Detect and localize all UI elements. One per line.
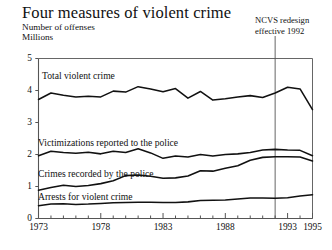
y-tick-label: 2: [16, 149, 32, 159]
x-tick-label: 1973: [22, 222, 56, 232]
series-label-arrests: Arrests for violent crime: [38, 191, 133, 202]
x-tick-label: 1978: [84, 222, 118, 232]
series-label-victimizations: Victimizations reported to the police: [38, 137, 178, 148]
series-label-recorded: Crimes recorded by the police: [38, 168, 154, 179]
figure-container: Four measures of violent crime Number of…: [0, 0, 332, 250]
y-tick-label: 3: [16, 117, 32, 127]
series-label-total: Total violent crime: [42, 70, 115, 81]
series-line-0: [39, 87, 313, 110]
x-tick-label: 1995: [296, 222, 330, 232]
x-tick-label: 1988: [208, 222, 242, 232]
y-tick-label: 1: [16, 181, 32, 191]
y-tick-label: 4: [16, 85, 32, 95]
chart-plot-area: [0, 0, 332, 250]
y-tick-label: 5: [16, 53, 32, 63]
x-tick-label: 1983: [146, 222, 180, 232]
